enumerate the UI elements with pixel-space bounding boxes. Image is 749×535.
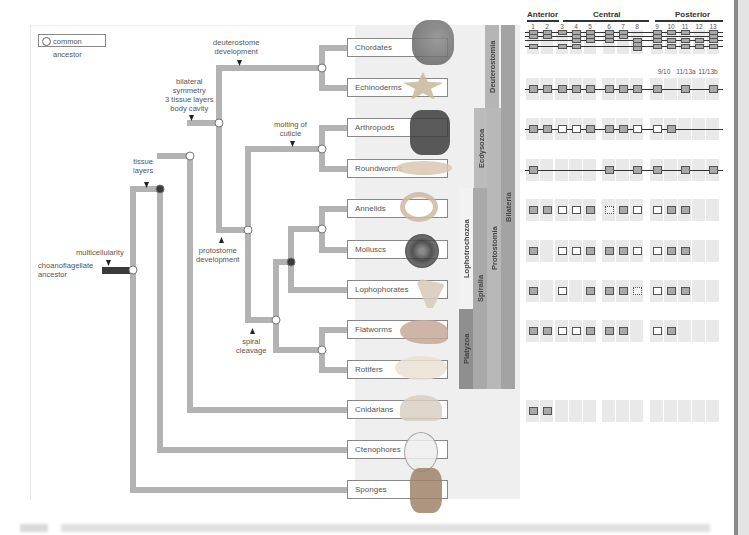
echinoderm-hox-label: 9/10 bbox=[653, 68, 675, 75]
hox-cell bbox=[706, 400, 719, 422]
posterior-bar bbox=[655, 20, 723, 22]
hox-gene bbox=[529, 44, 538, 49]
hox-gene bbox=[586, 287, 595, 295]
hox-gene bbox=[653, 287, 662, 295]
hox-cell bbox=[540, 280, 553, 302]
hox-gene bbox=[586, 206, 595, 214]
sponge-icon bbox=[410, 468, 442, 513]
hox-cell bbox=[616, 400, 629, 422]
trait-protostome: protostome development bbox=[196, 246, 239, 264]
region-anterior: Anterior bbox=[527, 10, 558, 19]
hox-cell bbox=[602, 400, 615, 422]
hox-gene bbox=[586, 327, 595, 335]
hox-gene bbox=[681, 206, 690, 214]
region-posterior: Posterior bbox=[675, 10, 710, 19]
hox-gene-number: 4 bbox=[571, 23, 581, 30]
hox-gene bbox=[681, 166, 690, 174]
chromosome-line bbox=[525, 40, 723, 41]
hox-gene bbox=[709, 166, 718, 174]
hox-cell bbox=[706, 240, 719, 262]
hox-gene-number: 5 bbox=[585, 23, 595, 30]
hox-cell bbox=[678, 400, 691, 422]
hox-gene bbox=[543, 206, 552, 214]
clade-lophotrochozoa: Lophotrochozoa bbox=[459, 188, 473, 309]
hox-gene bbox=[681, 30, 690, 35]
hox-gene bbox=[633, 166, 642, 174]
hox-gene bbox=[572, 38, 581, 43]
lobster-icon bbox=[410, 110, 450, 155]
hox-gene bbox=[695, 44, 704, 49]
clade-bilateria: Bilateria bbox=[501, 25, 515, 389]
trait-spiral: spiral cleavage bbox=[236, 337, 266, 355]
hox-gene bbox=[667, 38, 676, 43]
hox-gene bbox=[529, 206, 538, 214]
hox-cell bbox=[650, 400, 663, 422]
hox-gene-number: 9 bbox=[652, 23, 662, 30]
flatworm-icon bbox=[400, 320, 448, 344]
trait-multicellularity: multicellularity bbox=[76, 248, 124, 257]
hox-gene-number: 2 bbox=[542, 23, 552, 30]
hox-gene bbox=[543, 407, 552, 415]
hox-gene bbox=[529, 407, 538, 415]
hox-gene bbox=[667, 327, 676, 335]
hox-gene bbox=[558, 85, 567, 93]
hox-gene bbox=[558, 44, 567, 49]
hox-gene bbox=[619, 85, 628, 93]
hox-gene bbox=[653, 38, 662, 43]
hox-gene bbox=[605, 166, 614, 174]
hox-gene bbox=[529, 125, 538, 133]
hox-gene bbox=[605, 125, 614, 133]
hox-gene bbox=[667, 44, 676, 49]
roundworm-icon bbox=[396, 161, 452, 175]
hox-gene-number: 1 bbox=[528, 23, 538, 30]
clade-ecdysozoa: Ecdysozoa bbox=[474, 108, 488, 188]
hox-cell bbox=[630, 400, 643, 422]
hox-gene bbox=[667, 206, 676, 214]
hox-cell bbox=[692, 280, 705, 302]
hox-gene bbox=[529, 166, 538, 174]
chromosome-line bbox=[525, 46, 723, 47]
hox-gene bbox=[681, 38, 690, 43]
hox-gene bbox=[667, 30, 676, 35]
window-edge-scrollbar[interactable] bbox=[734, 0, 749, 535]
earthworm-icon bbox=[400, 192, 438, 222]
hox-cell bbox=[569, 400, 582, 422]
hox-gene bbox=[681, 247, 690, 255]
hox-gene bbox=[543, 125, 552, 133]
hox-gene bbox=[633, 206, 642, 214]
hox-gene bbox=[558, 206, 567, 214]
hox-gene bbox=[681, 44, 690, 49]
snail-icon bbox=[405, 234, 439, 268]
hox-gene bbox=[653, 85, 662, 93]
hox-gene bbox=[586, 125, 595, 133]
hox-cell bbox=[692, 400, 705, 422]
hox-gene bbox=[653, 247, 662, 255]
rotifer-icon bbox=[395, 356, 447, 380]
hox-gene bbox=[558, 287, 567, 295]
hox-gene bbox=[633, 125, 642, 133]
hox-gene bbox=[619, 327, 628, 335]
hox-gene-number: 13 bbox=[708, 23, 718, 30]
hox-gene bbox=[529, 85, 538, 93]
trait-molting: molting of cuticle bbox=[274, 120, 307, 138]
hox-gene bbox=[605, 247, 614, 255]
hox-cell bbox=[540, 240, 553, 262]
trait-bilateral: bilateral symmetry 3 tissue layers body … bbox=[165, 77, 214, 113]
hox-cell bbox=[583, 400, 596, 422]
hox-gene bbox=[653, 125, 662, 133]
hox-gene bbox=[681, 85, 690, 93]
hox-cell bbox=[678, 320, 691, 342]
clade-protostomia: Protostomia bbox=[487, 108, 501, 389]
clade-platyzoa: Platyzoa bbox=[459, 309, 473, 389]
hox-gene bbox=[667, 287, 676, 295]
hox-gene bbox=[695, 38, 704, 43]
hox-gene bbox=[681, 287, 690, 295]
echinoderm-hox-label: 11/13b bbox=[697, 68, 719, 75]
hox-cell bbox=[706, 280, 719, 302]
echinoderm-hox-label: 11/13a bbox=[675, 68, 697, 75]
region-central: Central bbox=[593, 10, 621, 19]
hox-gene bbox=[605, 287, 614, 295]
hox-gene bbox=[558, 125, 567, 133]
hox-gene-number: 8 bbox=[632, 23, 642, 30]
central-bar bbox=[563, 20, 649, 22]
